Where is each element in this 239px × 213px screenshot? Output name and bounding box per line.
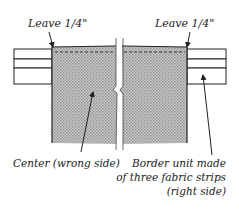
center-panel — [52, 38, 187, 150]
leave-left-arrow — [49, 32, 53, 47]
border-label-line2: of three fabric strips — [116, 171, 226, 183]
left-border-unit — [14, 49, 52, 84]
center-label: Center (wrong side) — [13, 157, 120, 169]
border-arrow — [203, 75, 212, 155]
leave-left-label: Leave 1/4" — [27, 17, 87, 30]
border-label-line1: Border unit made — [131, 157, 226, 169]
leave-right-arrow — [187, 32, 190, 47]
seam-diagram: Leave 1/4" Leave 1/4" Center (wrong side… — [0, 0, 239, 213]
right-border-unit — [187, 49, 226, 84]
leave-right-label: Leave 1/4" — [154, 17, 214, 30]
border-label-line3: (right side) — [167, 185, 226, 197]
